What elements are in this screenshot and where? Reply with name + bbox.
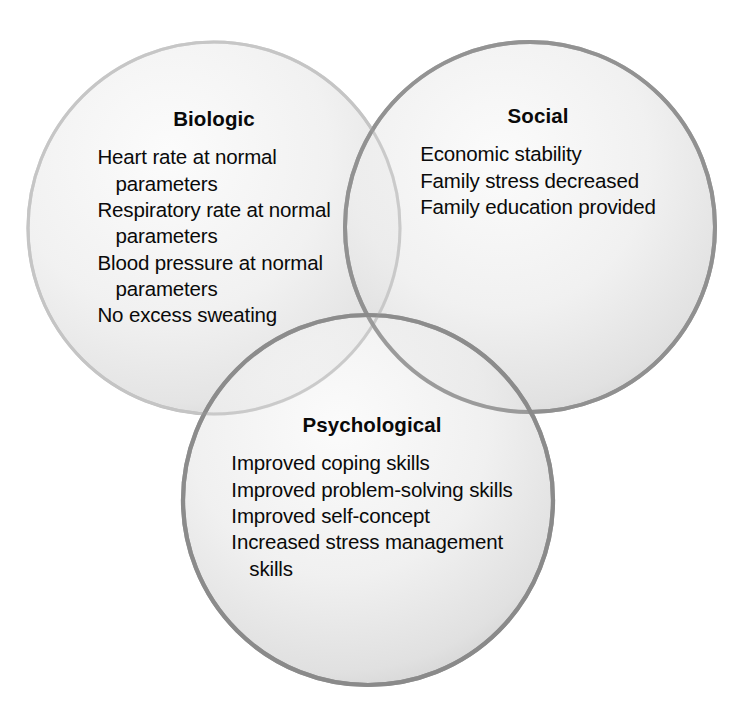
list-item: Heart rate at normal bbox=[97, 144, 330, 170]
list-item: Family education provided bbox=[420, 194, 656, 220]
list-item: Improved problem-solving skills bbox=[231, 477, 512, 503]
list-item: Family stress decreased bbox=[420, 168, 656, 194]
list-item: Respiratory rate at normal bbox=[97, 197, 330, 223]
list-item-continuation: parameters bbox=[97, 276, 330, 302]
venn-label-psychological: Psychological Improved coping skills Imp… bbox=[192, 412, 552, 582]
venn-items-social: Economic stability Family stress decreas… bbox=[420, 141, 656, 220]
venn-items-psychological: Improved coping skills Improved problem-… bbox=[231, 450, 512, 582]
list-item-continuation: parameters bbox=[97, 223, 330, 249]
venn-title-biologic: Biologic bbox=[36, 106, 392, 132]
venn-items-biologic: Heart rate at normal parameters Respirat… bbox=[97, 144, 330, 328]
list-item: No excess sweating bbox=[97, 302, 330, 328]
venn-title-social: Social bbox=[392, 103, 684, 129]
list-item: Blood pressure at normal bbox=[97, 250, 330, 276]
list-item: Improved self-concept bbox=[231, 503, 512, 529]
venn-label-biologic: Biologic Heart rate at normal parameters… bbox=[36, 106, 392, 329]
venn-title-psychological: Psychological bbox=[192, 412, 552, 438]
list-item: Improved coping skills bbox=[231, 450, 512, 476]
venn-diagram: Biologic Heart rate at normal parameters… bbox=[0, 0, 740, 728]
list-item: Increased stress management bbox=[231, 529, 512, 555]
list-item-continuation: skills bbox=[231, 556, 512, 582]
venn-label-social: Social Economic stability Family stress … bbox=[392, 103, 684, 220]
list-item: Economic stability bbox=[420, 141, 656, 167]
list-item-continuation: parameters bbox=[97, 171, 330, 197]
